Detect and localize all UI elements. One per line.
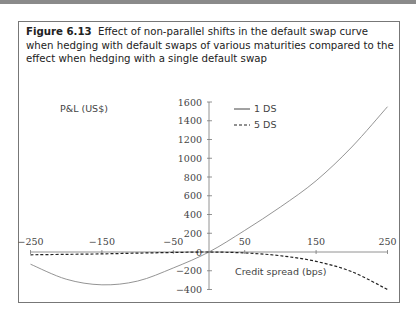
y-tick-label: −400: [176, 284, 202, 295]
y-tick-label: 1400: [178, 115, 202, 126]
x-tick-label: −50: [163, 236, 183, 247]
y-tick-label: 600: [184, 190, 202, 201]
y-tick-label: 400: [184, 209, 202, 220]
x-tick-label: 250: [378, 236, 396, 247]
y-tick-label: 1600: [178, 97, 202, 108]
chart: −400−20002004006008001000120014001600−25…: [0, 0, 416, 310]
y-tick-label: 200: [184, 228, 202, 239]
x-tick-label: −150: [89, 236, 115, 247]
y-tick-label: −200: [176, 265, 202, 276]
x-tick-label: 50: [239, 236, 251, 247]
x-axis-label: Credit spread (bps): [235, 266, 326, 277]
y-tick-label: 1200: [178, 134, 202, 145]
legend-label: 1 DS: [254, 103, 276, 114]
x-tick-label: −250: [17, 236, 43, 247]
y-tick-label: 1000: [178, 153, 202, 164]
legend-label: 5 DS: [254, 119, 276, 130]
y-tick-label: 800: [184, 172, 202, 183]
y-axis-label: P&L (US$): [60, 103, 108, 114]
x-tick-label: 150: [307, 236, 325, 247]
